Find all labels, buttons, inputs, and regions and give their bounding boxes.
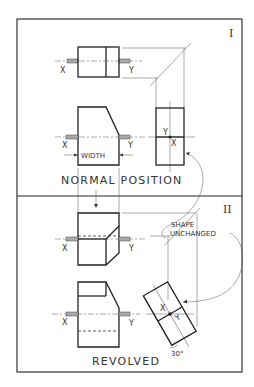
axis-label-x: X <box>62 318 68 327</box>
axis-label-y: Y <box>128 244 134 253</box>
point-label-x: X <box>171 139 177 148</box>
panel-normal-position: I X Y X Y WIDT <box>55 27 233 187</box>
axis-label-y: Y <box>127 141 133 150</box>
panel-revolved: II X Y SHAPE UNCHANGED <box>52 203 243 368</box>
roman-numeral-ii: II <box>223 203 232 216</box>
side-view-normal: Y X <box>148 101 195 172</box>
front-view-revolved: X Y <box>52 282 140 347</box>
point-label-y: Y <box>162 128 168 137</box>
axis-label-y: Y <box>128 319 134 328</box>
revolution-drawing: I X Y X Y WIDT <box>0 0 254 387</box>
caption-normal-position: NORMAL POSITION <box>61 174 183 187</box>
leader-curve-bottom <box>183 233 243 302</box>
axis-label-x: X <box>62 141 68 150</box>
width-dimension-label: WIDTH <box>81 152 105 160</box>
axis-label-y: Y <box>128 66 134 75</box>
axis-label-x: X <box>60 66 66 75</box>
top-view-revolved: X Y <box>55 213 145 265</box>
note-shape: SHAPE <box>171 221 194 229</box>
front-view-normal: X Y WIDTH <box>55 107 147 165</box>
note-unchanged: UNCHANGED <box>170 230 216 238</box>
top-view-normal: X Y <box>55 47 142 77</box>
roman-numeral-i: I <box>229 27 233 40</box>
side-view-revolved: X Y 30° <box>141 278 201 358</box>
arrow-down-icon <box>94 204 98 208</box>
axis-label-x: X <box>62 244 68 253</box>
caption-revolved: REVOLVED <box>92 355 160 368</box>
point-label-x: X <box>160 304 166 313</box>
angle-label: 30° <box>171 350 183 358</box>
